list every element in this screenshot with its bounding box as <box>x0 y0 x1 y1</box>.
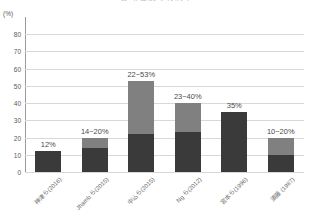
gridline <box>25 34 304 35</box>
y-axis-tick-label: 60 <box>14 65 21 72</box>
bar-segment-low <box>268 155 294 172</box>
bar-value-label: 10~20% <box>267 127 295 136</box>
x-axis-tick-label: 宮本ら(1996) <box>218 175 249 206</box>
gridline <box>25 138 304 139</box>
bar-value-label: 23~40% <box>174 92 202 101</box>
x-axis-tick-label: Ng ら(2012) <box>174 175 203 204</box>
x-axis-tick-label: 神津ら(2016) <box>32 175 63 206</box>
bar-group[interactable]: 14~20% <box>82 17 108 172</box>
bar-group[interactable]: 12% <box>35 17 61 172</box>
y-axis-tick-label: 10 <box>14 151 21 158</box>
y-axis-tick-label: 70 <box>14 48 21 55</box>
bar-value-label: 12% <box>41 140 56 149</box>
bar-group[interactable]: 35% <box>221 17 247 172</box>
bar-segment-high <box>128 81 154 134</box>
bar-segment-low <box>175 132 201 172</box>
plot-area: 12%14~20%22~53%23~40%35%10~20% <box>25 17 304 172</box>
bar-group[interactable]: 10~20% <box>268 17 294 172</box>
bar-segment-low <box>82 148 108 172</box>
bar-segment-high <box>175 103 201 132</box>
bar[interactable] <box>221 112 247 172</box>
bar-value-label: 35% <box>227 101 242 110</box>
gridline <box>25 86 304 87</box>
y-axis-unit-label: (%) <box>3 10 13 17</box>
bar-segment-low <box>128 134 154 172</box>
bar[interactable] <box>128 81 154 172</box>
chart-title-text: 診断名別の有病率 <box>0 0 314 2</box>
y-axis-tick-label: 30 <box>14 117 21 124</box>
bar-group[interactable]: 22~53% <box>128 17 154 172</box>
bar-segment-high <box>268 138 294 155</box>
bar[interactable] <box>82 138 108 172</box>
chart-title: 診断名別の有病率 <box>0 0 314 7</box>
bar[interactable] <box>268 138 294 172</box>
bar-value-label: 14~20% <box>81 127 109 136</box>
x-axis-tick-label: Jhamb ら(2015) <box>73 175 110 212</box>
gridline <box>25 69 304 70</box>
bar-segment-high <box>82 138 108 148</box>
y-axis-tick-label: 50 <box>14 82 21 89</box>
gridline <box>25 103 304 104</box>
gridline <box>25 51 304 52</box>
bar[interactable] <box>35 151 61 172</box>
bar-group[interactable]: 23~40% <box>175 17 201 172</box>
y-axis-tick-label: 80 <box>14 31 21 38</box>
bar-value-label: 22~53% <box>127 70 155 79</box>
y-axis-tick-label: 20 <box>14 134 21 141</box>
x-axis-tick-label: 中込ら(2015) <box>125 175 156 206</box>
bar[interactable] <box>175 103 201 172</box>
bar-segment-low <box>221 112 247 172</box>
chart-container: 診断名別の有病率 (%) 12%14~20%22~53%23~40%35%10~… <box>0 0 314 219</box>
bar-segment-low <box>35 151 61 172</box>
gridline <box>25 120 304 121</box>
gridline <box>25 155 304 156</box>
gridline <box>25 172 304 173</box>
y-axis-tick-label: 0 <box>17 169 21 176</box>
x-axis-tick-label: 須藤 (1987) <box>268 175 296 203</box>
y-axis-tick-label: 40 <box>14 100 21 107</box>
